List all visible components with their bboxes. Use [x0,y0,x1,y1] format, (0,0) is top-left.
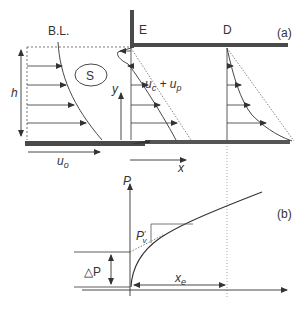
panel-b-tag: (b) [277,207,292,221]
station-d-label: D [223,23,232,37]
region-s-label: S [86,69,94,83]
height-label: h [11,86,18,100]
diagram: B.L. E D (a) S h y uc + up uo x [0,0,306,310]
boundary-layer-curve [58,42,102,140]
combined-velocity-label: uc + up [145,77,182,93]
panel-b: P (b) P′v △P xe [74,174,292,296]
station-e-recirculation [117,48,176,140]
inlet-velocity-label: uo [57,154,69,170]
station-e-label: E [139,23,147,37]
bottom-wall [25,141,145,146]
delta-p-label: △P [84,265,101,279]
inlet-velocity-arrows [27,66,86,123]
boundary-layer-label: B.L. [48,24,69,38]
panel-a-tag: (a) [277,26,292,40]
entrance-vertical-wall [130,10,134,48]
panel-a: B.L. E D (a) S h y uc + up uo x [11,10,294,175]
station-d-dashed-line [227,48,294,141]
pressure-axis-label: P [123,174,131,188]
bottom-wall-right [145,140,290,144]
pressure-prime-label: P′v [136,229,148,245]
station-d-profile-curve [227,48,292,141]
entrance-length-label: xe [174,271,186,287]
y-axis-label: y [111,82,119,96]
x-axis-label: x [177,161,185,175]
top-wall [130,43,288,47]
station-e-dashed-line [131,48,191,140]
